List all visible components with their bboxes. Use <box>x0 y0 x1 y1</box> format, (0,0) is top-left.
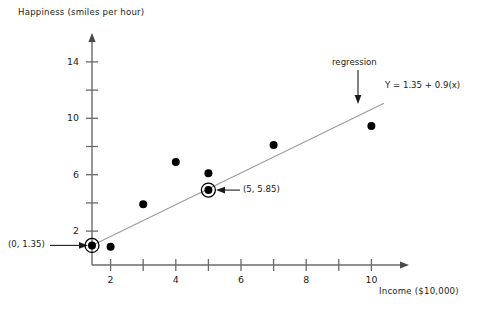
regression-line <box>92 103 384 245</box>
annotation-arrows-group <box>50 70 361 249</box>
intercept-arrow-head-icon <box>79 242 88 249</box>
y-axis-arrow-icon <box>88 33 95 42</box>
x-axis-arrow-icon <box>400 261 409 268</box>
data-point <box>139 200 147 208</box>
x-tick-label-8: 8 <box>296 274 316 285</box>
data-point <box>172 158 180 166</box>
axes-group <box>88 33 409 269</box>
predicted-arrow-head-icon <box>216 187 225 194</box>
x-tick-label-2: 2 <box>101 274 121 285</box>
x-tick-label-6: 6 <box>231 274 251 285</box>
data-point <box>204 169 212 177</box>
data-point <box>270 141 278 149</box>
data-point <box>107 243 115 251</box>
y-tick-label-14: 14 <box>57 56 79 67</box>
y-tick-label-2: 2 <box>57 225 79 236</box>
data-points-group <box>85 122 375 253</box>
regression-arrow-head-icon <box>355 95 362 104</box>
data-point <box>88 241 96 249</box>
scatter-plot-figure: Happiness (smiles per hour) Income ($10,… <box>0 0 482 312</box>
y-tick-label-6: 6 <box>57 169 79 180</box>
x-tick-label-10: 10 <box>361 274 381 285</box>
data-point <box>204 186 212 194</box>
y-tick-label-10: 10 <box>57 112 79 123</box>
plot-canvas <box>0 0 482 312</box>
x-tick-label-4: 4 <box>166 274 186 285</box>
data-point <box>367 122 375 130</box>
